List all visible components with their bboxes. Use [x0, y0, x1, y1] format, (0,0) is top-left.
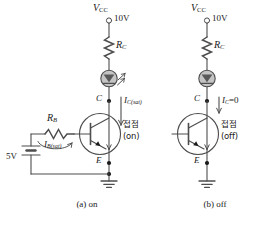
contact-state-a: (on) [123, 132, 139, 141]
resistor-rc-a [105, 37, 114, 59]
collector-resistor-label-a: RC [116, 40, 127, 51]
supply-terminal-b [204, 18, 209, 23]
supply-value-a: 10V [114, 14, 130, 23]
contact-label-a: 접점 [123, 120, 139, 129]
collector-current-label-a: IC(sat) [124, 96, 142, 105]
collector-node-label-b: C [194, 94, 200, 103]
supply-label-b: VCC [191, 3, 206, 14]
supply-terminal-a [106, 18, 111, 23]
contact-state-b: (off) [221, 132, 238, 141]
panel-caption-b: (b) off [183, 200, 247, 209]
battery-value-a: 5V [6, 152, 17, 161]
transistor-collector-lead-b [189, 118, 208, 128]
supply-value-b: 10V [212, 14, 228, 23]
resistor-rc-b [203, 37, 212, 59]
base-resistor-label-a: RB [47, 113, 57, 124]
supply-label-a: VCC [93, 3, 108, 14]
transistor-collector-lead-a [91, 118, 110, 128]
collector-current-label-b: IC=0 [222, 96, 239, 105]
contact-label-b: 접점 [221, 120, 237, 129]
collector-resistor-label-b: RC [214, 40, 225, 51]
led-emission-arrows-a [118, 74, 126, 86]
ground-symbol-a [101, 181, 117, 187]
panel-caption-a: (a) on [55, 200, 119, 209]
resistor-rb-a [45, 130, 74, 139]
base-current-label-a: IB(sat) [44, 140, 62, 149]
collector-node-label-a: C [96, 94, 102, 103]
emitter-node-dot-a [107, 161, 111, 165]
ground-symbol-b [199, 181, 215, 187]
collector-current-arrow-b [217, 97, 222, 113]
circuit-svg [0, 0, 266, 225]
battery-symbol-a [22, 146, 40, 155]
emitter-node-dot-b [205, 161, 209, 165]
emitter-node-label-b: E [194, 156, 200, 165]
emitter-node-label-a: E [96, 156, 102, 165]
circuit-figure: VCC 10V RC C IC(sat) 접점 (on) RB IB(sat) … [0, 0, 266, 225]
